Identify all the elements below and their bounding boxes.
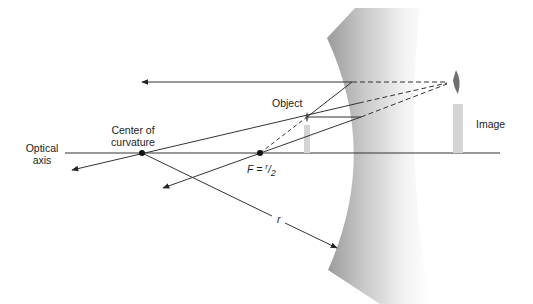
optical-axis-label-line1: Optical	[22, 142, 62, 154]
center-of-curvature-point	[139, 150, 145, 156]
radius-label: r	[277, 213, 281, 225]
focal-denominator: 2	[271, 168, 276, 178]
image-candle	[453, 104, 463, 153]
radius-line-b	[285, 223, 337, 248]
center-of-curvature-label: Center of curvature	[100, 124, 166, 148]
concave-mirror	[327, 8, 430, 304]
ray-obj-to-mirror-top	[307, 82, 352, 117]
object-candle	[304, 125, 310, 153]
optical-axis-label: Optical axis	[22, 142, 62, 166]
focal-point	[257, 150, 263, 156]
image-label: Image	[476, 118, 505, 130]
center-label-line1: Center of	[100, 124, 166, 136]
focal-prefix: F =	[247, 163, 265, 175]
object-label: Object	[272, 97, 302, 109]
concave-mirror-diagram	[0, 0, 533, 304]
center-label-line2: curvature	[100, 136, 166, 148]
ray-dashed-focus-object	[260, 117, 307, 153]
optical-axis-label-line2: axis	[22, 154, 62, 166]
focal-length-label: F = r/2	[247, 161, 276, 179]
image-flame	[453, 70, 460, 94]
